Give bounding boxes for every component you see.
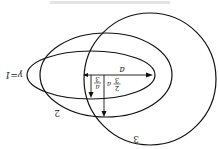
label-2a-over-3: 2 3 a: [107, 76, 121, 93]
svg-text:a: a: [95, 83, 99, 91]
svg-text:a: a: [107, 80, 111, 88]
label-a: a: [119, 65, 124, 75]
label-2: 2: [54, 108, 60, 118]
svg-text:3: 3: [115, 76, 119, 84]
label-3: 3: [133, 134, 139, 144]
orbit-diagram: γ=1 2 3 a a 3 2 3 a: [0, 0, 218, 149]
svg-text:2: 2: [54, 108, 60, 118]
arrow-a-third: [89, 75, 94, 98]
label-gamma-1: γ=1: [5, 70, 24, 80]
header-text-remnant: [50, 1, 170, 4]
svg-text:a: a: [119, 65, 124, 75]
label-a-over-3: a 3: [94, 75, 101, 92]
arrow-two-a-third: [102, 75, 107, 117]
svg-text:2: 2: [115, 84, 119, 92]
svg-text:3: 3: [95, 75, 99, 83]
svg-text:γ=1: γ=1: [5, 70, 24, 80]
svg-text:3: 3: [133, 134, 139, 144]
